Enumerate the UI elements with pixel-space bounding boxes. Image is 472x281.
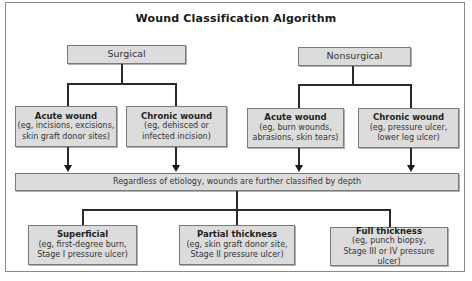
arrow-stem-1 (67, 147, 69, 166)
surgical-chronic-line1: (eg, dehisced or (144, 121, 209, 132)
partial-thickness-line2: Stage II pressure ulcer) (190, 250, 283, 261)
superficial-line2: Stage I pressure ulcer) (37, 250, 128, 261)
arrow-down-icon (407, 165, 415, 172)
arrow-down-icon (172, 165, 180, 172)
connector-nonsurgical-horizontal (298, 84, 411, 86)
nonsurgical-acute-wound-box: Acute wound (eg, burn wounds, abrasions,… (247, 108, 344, 148)
connector-surgical-right (175, 83, 177, 106)
arrow-down-icon (64, 165, 72, 172)
connector-nonsurgical-left (298, 84, 300, 108)
depth-classification-bar: Regardless of etiology, wounds are furth… (15, 173, 459, 191)
nonsurgical-box: Nonsurgical (298, 47, 411, 66)
nonsurgical-chronic-line2: lower leg ulcer) (377, 133, 439, 144)
connector-depth-left (82, 209, 84, 225)
partial-thickness-line1: (eg, skin graft donor site, (186, 240, 287, 251)
connector-depth-stem (236, 191, 238, 225)
surgical-acute-line2: skin graft donor sites) (22, 132, 110, 143)
partial-thickness-box: Partial thickness (eg, skin graft donor … (179, 225, 295, 265)
surgical-chronic-heading: Chronic wound (141, 111, 212, 122)
nonsurgical-label: Nonsurgical (326, 51, 382, 62)
superficial-box: Superficial (eg, first-degree burn, Stag… (28, 225, 137, 265)
connector-nonsurgical-stem (352, 66, 354, 85)
nonsurgical-acute-line2: abrasions, skin tears) (253, 133, 339, 144)
nonsurgical-acute-line1: (eg, burn wounds, (259, 123, 331, 134)
connector-nonsurgical-right (410, 84, 412, 108)
full-thickness-line2: Stage III or IV pressure ulcer) (331, 247, 447, 268)
full-thickness-heading: Full thickness (356, 226, 422, 237)
arrow-stem-2 (175, 147, 177, 166)
arrow-down-icon (295, 165, 303, 172)
surgical-acute-heading: Acute wound (35, 111, 97, 122)
surgical-box: Surgical (67, 45, 186, 64)
partial-thickness-heading: Partial thickness (197, 229, 277, 240)
connector-surgical-stem (121, 64, 123, 84)
superficial-heading: Superficial (57, 229, 108, 240)
surgical-chronic-wound-box: Chronic wound (eg, dehisced or infected … (126, 106, 227, 147)
depth-note: Regardless of etiology, wounds are furth… (113, 177, 361, 188)
surgical-chronic-line2: infected incision) (142, 132, 211, 143)
nonsurgical-chronic-heading: Chronic wound (373, 112, 444, 123)
connector-depth-horizontal (82, 209, 390, 211)
full-thickness-line1: (eg, punch biopsy, (352, 236, 426, 247)
nonsurgical-chronic-line1: (eg, pressure ulcer, (370, 123, 448, 134)
nonsurgical-chronic-wound-box: Chronic wound (eg, pressure ulcer, lower… (358, 108, 459, 148)
superficial-line1: (eg, first-degree burn, (38, 240, 126, 251)
surgical-acute-wound-box: Acute wound (eg, incisions, excisions, s… (15, 106, 117, 147)
surgical-acute-line1: (eg, incisions, excisions, (18, 121, 115, 132)
connector-depth-right (389, 209, 391, 227)
connector-surgical-left (67, 83, 69, 106)
connector-surgical-horizontal (67, 83, 176, 85)
surgical-label: Surgical (107, 49, 145, 60)
nonsurgical-acute-heading: Acute wound (264, 112, 326, 123)
full-thickness-box: Full thickness (eg, punch biopsy, Stage … (330, 227, 448, 266)
diagram-title: Wound Classification Algorithm (0, 12, 472, 25)
arrow-stem-4 (410, 148, 412, 166)
arrow-stem-3 (298, 148, 300, 166)
